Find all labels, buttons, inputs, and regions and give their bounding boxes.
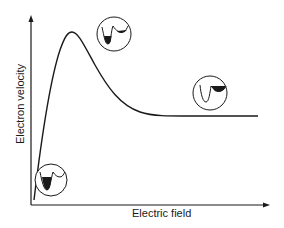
y-axis-arrow-icon [29, 15, 34, 22]
x-axis-arrow-icon [263, 203, 270, 208]
peak-inset [97, 17, 131, 51]
high-field-inset [193, 76, 227, 110]
velocity-curve [34, 32, 258, 200]
y-axis-label: Electron velocity [14, 54, 26, 154]
velocity-field-diagram [0, 0, 284, 228]
low-field-inset [35, 164, 67, 196]
x-axis-label: Electric field [132, 207, 191, 219]
